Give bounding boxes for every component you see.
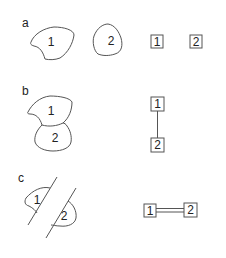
panel-label-a: a (22, 16, 29, 30)
panel-label-b: b (22, 84, 29, 98)
region-2-label: 2 (108, 34, 115, 48)
graph-node-2-label: 2 (154, 138, 161, 152)
boundary-line-1 (28, 177, 57, 225)
region-2-label: 2 (61, 209, 68, 223)
graph-node-2-label: 2 (187, 203, 194, 217)
graph-node-2-label: 2 (193, 35, 200, 49)
panel-b: b 1 2 1 2 (22, 84, 164, 152)
region-1-label: 1 (48, 104, 55, 118)
region-adjacency-diagram: a 1 2 1 2 b 1 2 1 2 c 1 2 1 2 (0, 0, 226, 258)
graph-node-1-label: 1 (154, 97, 161, 111)
region-2-label: 2 (52, 131, 59, 145)
panel-a: a 1 2 1 2 (22, 16, 202, 60)
graph-node-1-label: 1 (147, 204, 154, 218)
graph-node-1-label: 1 (154, 35, 161, 49)
region-1-label: 1 (48, 35, 55, 49)
panel-label-c: c (18, 171, 24, 185)
panel-c: c 1 2 1 2 (18, 171, 197, 238)
region-1-label: 1 (34, 193, 41, 207)
